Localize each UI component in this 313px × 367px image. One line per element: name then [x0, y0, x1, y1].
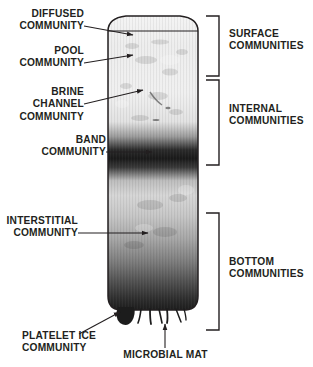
label-bottom-communities: BOTTOM COMMUNITIES	[229, 256, 311, 281]
microbial-mat-filaments	[138, 309, 186, 324]
platelet-ice-blob	[116, 307, 134, 325]
label-brine-channel-community: BRINE CHANNEL COMMUNITY	[2, 86, 84, 123]
ice-core-diagram: DIFFUSED COMMUNITY POOL COMMUNITY BRINE …	[0, 0, 313, 367]
label-band-community: BAND COMMUNITY	[28, 134, 106, 159]
bracket-bottom	[206, 213, 219, 330]
label-pool-community: POOL COMMUNITY	[8, 45, 84, 70]
label-diffused-community: DIFFUSED COMMUNITY	[8, 8, 84, 33]
zone-brackets	[206, 16, 219, 330]
label-microbial-mat: MICROBIAL MAT	[118, 349, 213, 361]
bracket-internal	[206, 80, 219, 165]
label-platelet-ice-community: PLATELET ICE COMMUNITY	[22, 330, 108, 355]
bracket-surface	[206, 16, 219, 76]
label-internal-communities: INTERNAL COMMUNITIES	[229, 103, 311, 128]
label-interstitial-community: INTERSTITIAL COMMUNITY	[0, 215, 78, 240]
label-surface-communities: SURFACE COMMUNITIES	[229, 28, 311, 53]
